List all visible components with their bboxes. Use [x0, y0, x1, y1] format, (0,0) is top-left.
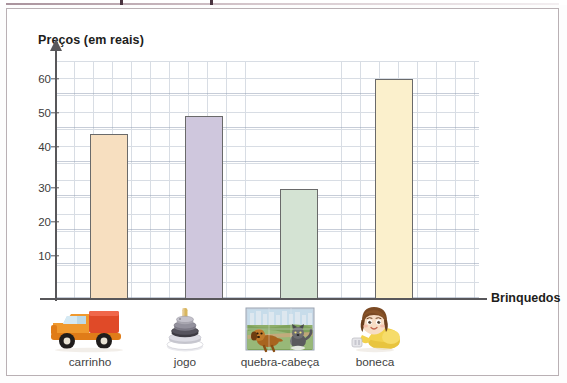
- category-quebra-cabeca[interactable]: quebra-cabeça: [226, 303, 334, 369]
- jigsaw-puzzle-icon: [226, 303, 334, 353]
- y-tick-mark: [51, 146, 59, 147]
- y-tick-label: 10: [38, 250, 51, 262]
- category-boneca[interactable]: boneca: [321, 303, 429, 369]
- y-tick-label: 50: [38, 107, 51, 119]
- page-root: Preços (em reais) 60 50 40 30: [0, 0, 567, 383]
- category-label: carrinho: [36, 355, 144, 369]
- doll-icon: [321, 303, 429, 353]
- bar-carrinho[interactable]: [90, 134, 128, 299]
- chart-frame: Preços (em reais) 60 50 40 30: [6, 8, 559, 376]
- y-tick-label: 20: [38, 216, 51, 228]
- x-axis-line: [40, 298, 487, 300]
- page-crop-mark-left: [120, 0, 123, 5]
- category-label: boneca: [321, 355, 429, 369]
- y-axis-line: [55, 49, 57, 301]
- plot-area: [55, 61, 479, 299]
- bar-jogo[interactable]: [185, 116, 223, 299]
- y-tick-label: 30: [38, 182, 51, 194]
- page-top-rule: [6, 3, 559, 5]
- y-axis-arrow-icon: [50, 39, 62, 51]
- category-carrinho[interactable]: carrinho: [36, 303, 144, 369]
- toy-truck-icon: [36, 303, 144, 353]
- category-label: jogo: [131, 355, 239, 369]
- y-tick-label: 60: [38, 73, 51, 85]
- y-tick-label: 40: [38, 141, 51, 153]
- y-tick-mark: [51, 78, 59, 79]
- stacking-rings-icon: [131, 303, 239, 353]
- page-crop-mark-right: [210, 0, 213, 5]
- bar-quebra-cabeca[interactable]: [280, 189, 318, 299]
- y-tick-mark: [51, 255, 59, 256]
- category-label: quebra-cabeça: [226, 355, 334, 369]
- bar-boneca[interactable]: [375, 79, 413, 299]
- category-jogo[interactable]: jogo: [131, 303, 239, 369]
- x-axis-title: Brinquedos: [491, 291, 560, 305]
- y-tick-mark: [51, 112, 59, 113]
- y-tick-mark: [51, 221, 59, 222]
- y-tick-mark: [51, 187, 59, 188]
